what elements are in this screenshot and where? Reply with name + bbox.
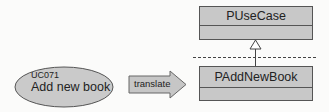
generalization-triangle-icon xyxy=(250,40,261,49)
class-name-paddnewbook: PAddNewBook xyxy=(199,70,313,84)
use-case-name: Add new book xyxy=(31,80,110,94)
translate-arrow-label: translate xyxy=(134,78,170,89)
class-name-pusecase: PUseCase xyxy=(199,9,313,23)
use-case-id: UC071 xyxy=(31,70,59,80)
